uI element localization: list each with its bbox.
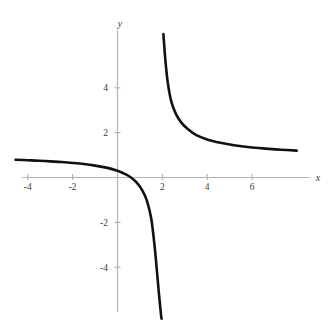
- y-tick-label-2: 2: [103, 128, 108, 138]
- y-tick-label--4: -4: [100, 263, 108, 273]
- x-tick-label-2: 2: [160, 182, 165, 192]
- hyperbola-plot: -4 -2 2 4 6 4 2 -2 -4 x y: [0, 0, 334, 322]
- x-tick-label--2: -2: [69, 182, 77, 192]
- y-tick-label--2: -2: [100, 218, 108, 228]
- curve-group: [16, 34, 297, 318]
- curve-left-branch: [16, 160, 162, 319]
- x-tick-label-6: 6: [250, 182, 255, 192]
- curve-right-branch: [163, 34, 296, 150]
- x-axis-label: x: [315, 172, 321, 183]
- chart-figure: -4 -2 2 4 6 4 2 -2 -4 x y: [0, 0, 334, 322]
- x-tick-label--4: -4: [24, 182, 32, 192]
- y-axis-label: y: [117, 18, 123, 29]
- x-tick-label-4: 4: [205, 182, 210, 192]
- y-tick-label-4: 4: [103, 83, 108, 93]
